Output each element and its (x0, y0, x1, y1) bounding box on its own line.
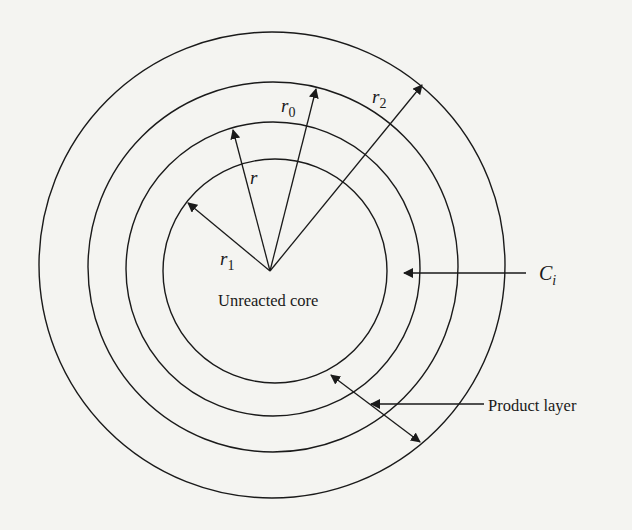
radius-arrows: r1rr0r2 (188, 85, 422, 273)
ci-label: Ci (539, 262, 556, 288)
ci-subscript: i (552, 273, 556, 288)
radius-arrow-r (233, 130, 270, 271)
radius-label-r2: r2 (372, 86, 386, 111)
radius-label-r: r (250, 167, 258, 188)
product-layer-thickness-arrow (331, 375, 420, 442)
shrinking-core-diagram: r1rr0r2 Unreacted core Ci Product layer (0, 0, 632, 530)
radius-label-r0: r0 (281, 95, 295, 120)
radius-label-r1: r1 (220, 248, 234, 273)
unreacted-core-r1-circle (163, 159, 387, 383)
product-layer-label: Product layer (488, 396, 577, 415)
unreacted-core-label: Unreacted core (218, 291, 318, 310)
shell-r0-circle (126, 122, 420, 416)
